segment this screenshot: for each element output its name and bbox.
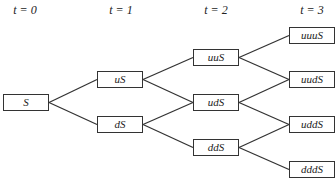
edge-udS-uudS [239, 80, 289, 103]
time-label-t0: t = 0 [13, 3, 36, 18]
node-ddS: ddS [193, 139, 239, 156]
edge-ddS-dddS [239, 148, 289, 170]
edge-dS-udS [143, 103, 193, 125]
edge-uuS-uuuS [239, 36, 289, 58]
node-uudS: uudS [289, 71, 335, 88]
node-S: S [3, 94, 49, 111]
node-uS: uS [97, 71, 143, 88]
edge-dS-ddS [143, 125, 193, 148]
edge-S-dS [49, 103, 97, 125]
edge-ddS-uddS [239, 125, 289, 148]
node-dS: dS [97, 116, 143, 133]
node-uddS: uddS [289, 116, 335, 133]
edge-udS-uddS [239, 103, 289, 125]
time-label-t3: t = 3 [300, 3, 323, 18]
node-dddS: dddS [289, 161, 335, 178]
edge-uS-udS [143, 80, 193, 103]
edge-uS-uuS [143, 58, 193, 80]
node-uuS: uuS [193, 49, 239, 66]
edge-uuS-uudS [239, 58, 289, 80]
time-label-t1: t = 1 [109, 3, 132, 18]
node-udS: udS [193, 94, 239, 111]
edge-S-uS [49, 80, 97, 103]
time-label-t2: t = 2 [204, 3, 227, 18]
node-uuuS: uuuS [289, 27, 335, 44]
